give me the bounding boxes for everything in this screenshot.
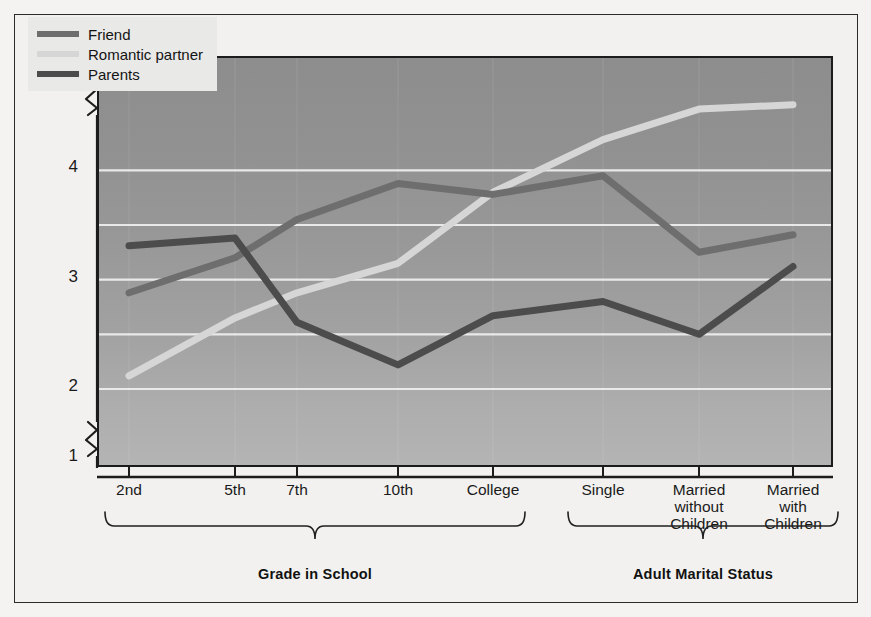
legend-item: Parents [37, 64, 203, 84]
legend-label-parents: Parents [88, 66, 140, 83]
x-tick-line: 10th [383, 481, 413, 498]
x-axis-tick-label-4: College [467, 481, 520, 498]
x-tick-line: Married [670, 481, 728, 498]
legend-swatch-parents [37, 71, 79, 77]
series-line-friend [129, 176, 793, 293]
x-tick-line: 7th [286, 481, 308, 498]
x-tick-line: Single [581, 481, 624, 498]
legend-swatch-friend [37, 31, 79, 37]
plot-area [97, 56, 833, 467]
group-label-grade-in-school: Grade in School [258, 566, 372, 582]
group-label-adult-marital-status: Adult Marital Status [633, 566, 773, 582]
y-axis-tick-1: 1 [48, 446, 78, 466]
legend-swatch-romantic-partner [37, 51, 79, 57]
y-axis-tick-4: 4 [48, 157, 78, 177]
group-bracket [568, 512, 838, 539]
x-tick-line: Married [764, 481, 822, 498]
group-bracket-group [0, 500, 871, 617]
y-axis-tick-3: 3 [48, 267, 78, 287]
x-axis-tick-label-0: 2nd [116, 481, 142, 498]
legend-item: Romantic partner [37, 44, 203, 64]
legend-label-friend: Friend [88, 26, 131, 43]
x-axis-tick-label-3: 10th [383, 481, 413, 498]
x-tick-line: College [467, 481, 520, 498]
y-axis-tick-2: 2 [48, 376, 78, 396]
chart-figure: Mean Self-Disclosure Score 54321 Friend … [0, 0, 871, 617]
x-tick-line: 5th [224, 481, 246, 498]
chart-legend: Friend Romantic partner Parents [28, 17, 217, 91]
x-axis-tick-label-1: 5th [224, 481, 246, 498]
group-bracket [105, 512, 525, 539]
x-axis-tick-label-2: 7th [286, 481, 308, 498]
plot-canvas [99, 58, 831, 465]
legend-label-romantic-partner: Romantic partner [88, 46, 203, 63]
x-tick-line: 2nd [116, 481, 142, 498]
x-axis-tick-label-5: Single [581, 481, 624, 498]
legend-item: Friend [37, 24, 203, 44]
